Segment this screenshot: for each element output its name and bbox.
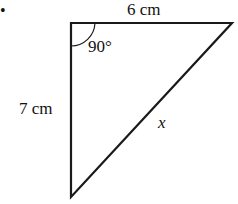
angle-label: 90° bbox=[88, 37, 112, 56]
hypotenuse-label: x bbox=[157, 113, 166, 132]
question-bullet: • bbox=[0, 2, 6, 19]
triangle-diagram: • 90° 6 cm 7 cm x bbox=[0, 0, 238, 204]
left-side-label: 7 cm bbox=[19, 99, 53, 118]
top-side-label: 6 cm bbox=[127, 0, 161, 19]
